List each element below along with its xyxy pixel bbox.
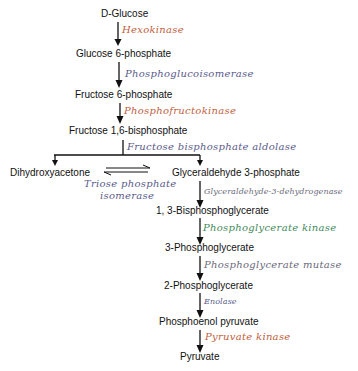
metabolite-fructose-6-phosphate: Fructose 6-phosphate [75, 89, 172, 101]
enzyme-enolase: Enolase [204, 296, 237, 308]
metabolite-glucose-6-phosphate: Glucose 6-phosphate [76, 48, 171, 60]
metabolite-pyruvate: Pyruvate [180, 351, 219, 363]
enzyme-phosphoglucoisomerase: Phosphoglucoisomerase [125, 68, 254, 80]
enzyme-hexokinase: Hexokinase [122, 24, 184, 36]
metabolite-2-phosphoglycerate: 2-Phosphoglycerate [164, 280, 253, 292]
enzyme-glyceraldehyde-3-dehydrogenase: Glyceraldehyde-3-dehydrogenase [204, 186, 343, 198]
enzyme-phosphoglycerate-mutase: Phosphoglycerate mutase [204, 259, 342, 271]
enzyme-fructose-bisphosphate-aldolase: Fructose bisphosphate aldolase [127, 141, 296, 153]
enzyme-triose-phosphate-isomerase-line1: Triose phosphate [84, 178, 176, 190]
metabolite-1-3-bisphosphoglycerate: 1, 3-Bisphosphoglycerate [156, 205, 269, 217]
metabolite-dihydroxyacetone: Dihydroxyacetone [10, 167, 90, 179]
enzyme-phosphoglycerate-kinase: Phosphoglycerate kinase [203, 222, 336, 234]
metabolite-phosphoenol-pyruvate: Phosphoenol pyruvate [159, 316, 259, 328]
enzyme-phosphofructokinase: Phosphofructokinase [124, 105, 236, 117]
metabolite-glyceraldehyde-3-phosphate: Glyceraldehyde 3-phosphate [172, 167, 300, 179]
enzyme-pyruvate-kinase: Pyruvate kinase [205, 331, 291, 343]
metabolite-fructose-1-6-bisphosphate: Fructose 1,6-bisphosphate [69, 125, 187, 137]
enzyme-triose-phosphate-isomerase-line2: isomerase [100, 190, 154, 202]
metabolite-3-phosphoglycerate: 3-Phosphoglycerate [165, 242, 254, 254]
metabolite-d-glucose: D-Glucose [101, 8, 148, 20]
